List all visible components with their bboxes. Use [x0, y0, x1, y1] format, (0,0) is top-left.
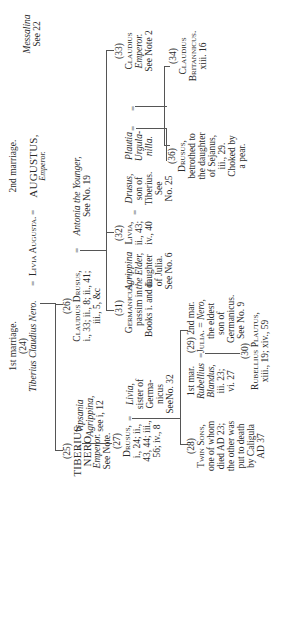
connector: [164, 145, 170, 146]
livia-augusta: Livia Augusta.: [28, 217, 38, 277]
node-34-britannicus: (34) Claudius Britannicus. xiii. 16: [168, 26, 208, 86]
connector: [106, 51, 107, 311]
connector: [136, 128, 166, 129]
vipsania: Vipsania Agrippina, see i, 12: [75, 386, 105, 446]
plautia-urgulanilla: Plautia Urgula- nilla.: [124, 126, 154, 166]
connector: [106, 50, 114, 51]
connector: [82, 443, 112, 444]
messalina: Messalina See 22: [22, 9, 42, 59]
node-33-claudius-emperor: (33) Claudius Emperor. See Note 2: [114, 19, 154, 83]
livia-sister-of-germanicus: Livia, sister of Germa- nicus SeeNo. 32: [125, 369, 175, 419]
connector: [135, 106, 167, 107]
connector: [55, 303, 56, 451]
node-30-rubellius-plautus: (30) Rubellius Plautus, xiii., 19; xiv.,…: [240, 306, 270, 396]
node-32-livia: (32) Livia, ii., 43; iv., 40: [114, 213, 154, 253]
node-26-claudius-drusus: (26) Claudius Drusus, i., 33; ii., 8; ii…: [62, 256, 102, 356]
antonia-the-younger: Antonia the Younger, See No. 19: [72, 146, 92, 246]
connector: [40, 303, 55, 304]
node-29-julia: (29) 2nd mar. Julia. = Nero, the eldest …: [186, 293, 246, 353]
connector: [106, 232, 114, 233]
first-marriage: 1st marriage. (24) Tiberius Claudius Ner…: [8, 286, 38, 406]
second-marriage: 2nd marriage. AUGUSTUS, Emperor.: [8, 121, 48, 211]
rubellius-blandus: 1st mar. Rubellius Blandus, iii. 23; vi.…: [186, 356, 236, 406]
genealogy-diagram: 1st marriage. (24) Tiberius Claudius Ner…: [0, 0, 281, 631]
connector: [80, 250, 106, 251]
connector: [180, 330, 181, 445]
connector: [106, 310, 114, 311]
connector: [205, 353, 240, 354]
connector: [132, 418, 180, 419]
connector: [164, 66, 165, 146]
node-36-drusus: (36) Drusus, betrothed to the daughter o…: [167, 121, 247, 191]
node-28-twin-sons: (28) Twin Sons, one of whom died AD 23; …: [186, 406, 266, 486]
marriage-symbol: =: [28, 281, 38, 286]
